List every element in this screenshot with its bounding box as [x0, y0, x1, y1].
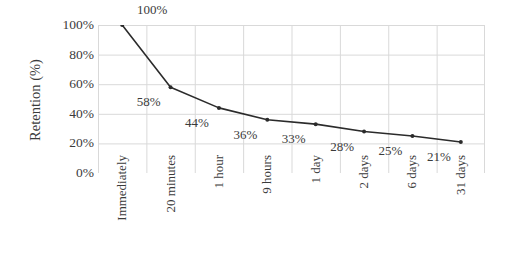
x-tick-label: 20 minutes	[163, 155, 179, 251]
x-axis-tick-labels: Immediately20 minutes1 hour9 hours1 day2…	[0, 0, 505, 262]
x-tick-label: 31 days	[453, 155, 469, 251]
forgetting-curve-chart: Retention (%) 0%20%40%60%80%100% 100%58%…	[0, 0, 505, 262]
x-tick-label: 1 hour	[211, 155, 227, 251]
x-tick-label: 2 days	[356, 155, 372, 251]
x-tick-label: 1 day	[308, 155, 324, 251]
x-tick-label: 9 hours	[259, 155, 275, 251]
x-tick-label: 6 days	[404, 155, 420, 251]
x-tick-label: Immediately	[114, 155, 130, 251]
